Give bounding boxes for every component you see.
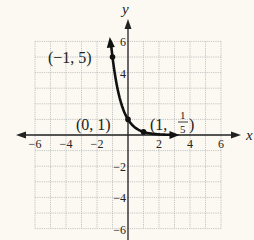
y-tick-label: −6 [113, 223, 126, 237]
x-tick-label: −2 [91, 137, 104, 151]
x-axis-label: x [245, 127, 253, 143]
data-point [141, 129, 147, 135]
point-label-1-fifth-suffix: ) [189, 116, 194, 134]
point-label-0-1: (0, 1) [76, 116, 111, 134]
x-tick-label: 6 [218, 137, 224, 151]
y-tick-label: 6 [120, 35, 126, 49]
x-axis-right-arrow-icon [231, 132, 241, 139]
x-tick-label: 2 [156, 137, 162, 151]
x-axis-left-arrow-icon [16, 132, 26, 139]
x-tick-label: −6 [29, 137, 42, 151]
point-label-neg1-5: (−1, 5) [48, 49, 92, 67]
y-axis-label: y [120, 1, 129, 17]
y-tick-label: −2 [113, 160, 126, 174]
y-axis-up-arrow-icon [125, 19, 132, 29]
point-labels: (−1, 5) (0, 1) (1, 1 5 ) [48, 49, 194, 135]
point-label-1-fifth-den: 5 [180, 123, 186, 135]
point-label-1-fifth-num: 1 [180, 109, 186, 121]
curve-arrow-up-icon [107, 37, 115, 48]
y-tick-label: 4 [120, 67, 126, 81]
y-tick-label: −4 [113, 191, 126, 205]
data-point [110, 54, 116, 60]
axes: x y [16, 1, 253, 240]
data-point [125, 117, 131, 123]
x-tick-label: −4 [60, 137, 73, 151]
function-graph: x y −6−4−224664−2−4−6 (−1, 5) (0, 1) (1,… [0, 0, 254, 240]
point-label-1-fifth-prefix: (1, [150, 116, 167, 134]
x-tick-label: 4 [187, 137, 193, 151]
